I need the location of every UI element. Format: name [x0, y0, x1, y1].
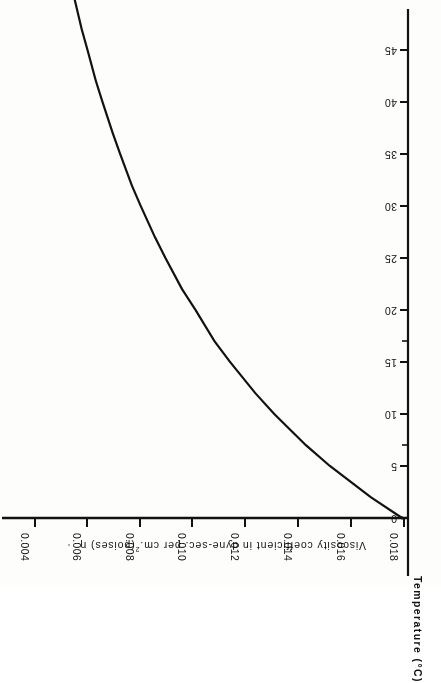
temperature-tick-label-0: 0 — [391, 513, 397, 525]
viscosity-curve — [74, 0, 402, 518]
viscosity-axis-title-superscript: 2 — [135, 546, 140, 553]
temperature-tick-label-30: 30 — [385, 201, 397, 213]
temperature-tick-marks — [400, 50, 408, 518]
temperature-axis-units: (°C) — [412, 659, 424, 683]
temperature-tick-label-45: 45 — [385, 45, 397, 57]
temperature-tick-label-25: 25 — [385, 253, 397, 265]
temperature-tick-label-15: 15 — [385, 357, 397, 369]
curve-origin-marker — [400, 516, 403, 519]
temperature-tick-label-35: 35 — [385, 149, 397, 161]
viscosity-tick-marks — [35, 518, 404, 527]
viscosity-axis-title-tail: (poises) η — [80, 541, 135, 553]
temperature-axis-title: Temperature — [412, 576, 424, 654]
temperature-tick-label-5: 5 — [391, 461, 397, 473]
temperature-tick-label-10: 10 — [385, 409, 397, 421]
temperature-tick-label-40: 40 — [385, 97, 397, 109]
scan-speck — [68, 544, 70, 546]
viscosity-tick-label-0018: 0.018 — [388, 533, 400, 561]
temperature-axis-title-group: Temperature (°C) — [412, 576, 424, 683]
temperature-tick-label-20: 20 — [385, 305, 397, 317]
viscosity-axis-title-main: Viscosity coefficient in dyne-sec. per c… — [140, 541, 367, 553]
viscosity-axis-title: Viscosity coefficient in dyne-sec. per c… — [80, 541, 366, 554]
viscosity-tick-label-0004: 0.004 — [19, 533, 31, 561]
